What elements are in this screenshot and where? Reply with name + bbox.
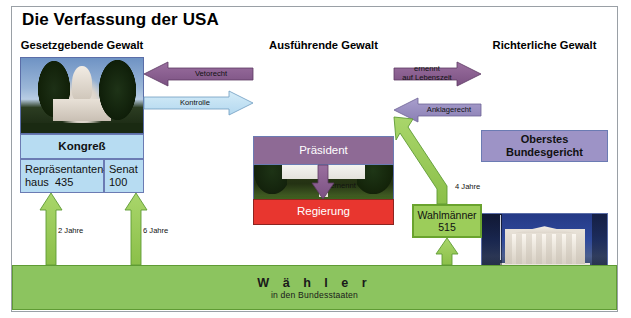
electors-label: Wahlmänner 515 [413, 209, 480, 233]
supreme-court-line1: Oberstes [521, 133, 569, 145]
congress-label: Kongreß [54, 140, 109, 153]
judicial-heading: Richterliche Gewalt [481, 39, 608, 51]
house-of-representatives-box[interactable]: Repräsentanten-haus 435 [20, 159, 104, 193]
senate-box[interactable]: Senat 100 [104, 159, 144, 193]
voters-bar[interactable]: W ä h l e r in den Bundesstaaten [12, 265, 617, 310]
voters-title: W ä h l e r [257, 276, 371, 290]
capitol-building-photo [20, 57, 144, 134]
congress-box[interactable]: Kongreß [20, 134, 144, 159]
electors-term-label: 4 Jahre [455, 182, 480, 191]
appoint-for-life-line2: auf Lebenszeit [402, 73, 451, 82]
house-term-label: 2 Jahre [58, 226, 83, 235]
president-box[interactable]: Präsident [253, 136, 394, 165]
diagram-canvas: Die Verfassung der USA Gesetzgebende Gew… [0, 0, 631, 318]
government-box[interactable]: Regierung [253, 199, 394, 225]
house-label: Repräsentanten-haus 435 [21, 163, 111, 188]
senate-seats: 100 [109, 176, 127, 188]
supreme-court-label: Oberstes Bundesgericht [502, 133, 587, 158]
electors-count: 515 [438, 221, 456, 233]
house-seats: 435 [55, 176, 73, 188]
appoint-for-life-line1: ernennt [414, 64, 440, 73]
electors-name: Wahlmänner [417, 209, 476, 221]
legislative-heading: Gesetzgebende Gewalt [20, 39, 144, 51]
government-label: Regierung [293, 205, 354, 218]
senate-name: Senat [109, 163, 138, 175]
senate-term-label: 6 Jahre [143, 226, 168, 235]
president-label: Präsident [295, 144, 352, 157]
impeachment-label: Anklagerecht [420, 105, 478, 114]
appoints-government-label: ernennt [330, 181, 356, 190]
veto-label: Vetorecht [178, 69, 244, 78]
senate-label: Senat 100 [105, 163, 142, 188]
page-title: Die Verfassung der USA [22, 10, 219, 30]
supreme-court-box[interactable]: Oberstes Bundesgericht [481, 130, 608, 162]
appoint-for-life-label: ernennt auf Lebenszeit [398, 64, 456, 83]
supreme-court-line2: Bundesgericht [506, 146, 583, 158]
electoral-college-box[interactable]: Wahlmänner 515 [412, 204, 482, 238]
executive-heading: Ausführende Gewalt [253, 39, 394, 51]
voters-subtitle: in den Bundesstaaten [271, 290, 358, 300]
control-label: Kontrolle [162, 98, 228, 107]
